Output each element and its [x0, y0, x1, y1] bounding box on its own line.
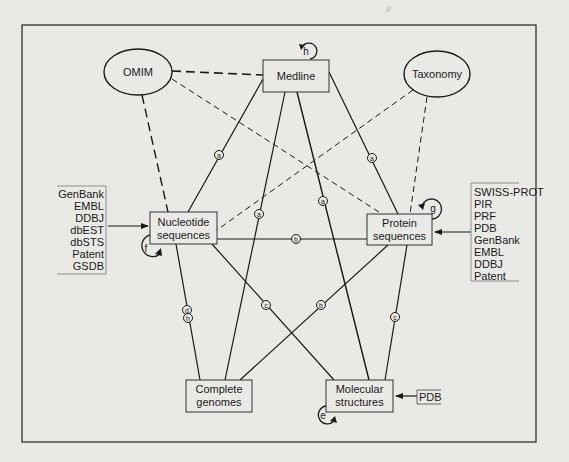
edge-label-medline-structures: a: [319, 197, 328, 206]
node-protein-sequences: Protein sequences: [367, 214, 432, 245]
svg-text:e: e: [320, 410, 326, 421]
svg-text:Patent: Patent: [474, 270, 506, 282]
svg-text:h: h: [303, 46, 309, 57]
edge-omim-protein: [172, 79, 382, 214]
protein-sources-list: SWISS-PROT PIR PRF PDB GenBank EMBL DDBJ…: [471, 183, 544, 282]
edge-omim-nucleotide: [142, 95, 168, 212]
svg-text:GSDB: GSDB: [73, 260, 104, 272]
edge-omim-medline: [172, 71, 263, 75]
svg-text:dbEST: dbEST: [70, 224, 104, 236]
svg-text:Molecular: Molecular: [336, 383, 384, 395]
edge-label-medline-genomes: a: [255, 210, 264, 219]
node-omim-label: OMIM: [123, 66, 153, 78]
edge-medline-genomes: [225, 92, 285, 380]
node-nucleotide-sequences: Nucleotide sequences: [150, 212, 217, 244]
svg-text:structures: structures: [335, 396, 384, 408]
loop-arrow-icon: [330, 416, 337, 423]
node-omim: OMIM: [104, 49, 172, 95]
entrez-database-diagram: // a: [0, 0, 569, 462]
svg-text:a: a: [321, 198, 325, 205]
svg-text:f: f: [145, 243, 148, 254]
stray-mark: //: [386, 4, 392, 14]
svg-text:c: c: [393, 314, 397, 321]
svg-text:GenBank: GenBank: [58, 188, 104, 200]
node-medline-label: Medline: [277, 70, 316, 82]
svg-text:dbSTS: dbSTS: [70, 236, 104, 248]
loop-arrow-icon: [418, 203, 425, 210]
node-medline: Medline: [263, 60, 329, 92]
svg-text:sequences: sequences: [373, 230, 427, 242]
edge-label-medline-nucleotide: a: [215, 151, 224, 160]
svg-text:SWISS-PROT: SWISS-PROT: [474, 186, 544, 198]
svg-text:b: b: [319, 302, 323, 309]
svg-text:Nucleotide: Nucleotide: [158, 216, 210, 228]
node-molecular-structures: Molecular structures: [326, 380, 393, 412]
svg-text:h: h: [186, 315, 190, 322]
svg-text:EMBL: EMBL: [74, 200, 104, 212]
svg-text:DDBJ: DDBJ: [75, 212, 104, 224]
svg-text:DDBJ: DDBJ: [474, 258, 503, 270]
edge-label-medline-protein: a: [368, 154, 377, 163]
svg-text:sequences: sequences: [157, 229, 211, 241]
node-taxonomy-label: Taxonomy: [412, 68, 463, 80]
edge-medline-structures: [297, 92, 369, 380]
node-complete-genomes: Complete genomes: [186, 380, 252, 412]
edge-label-nucleotide-protein: b: [292, 235, 301, 244]
self-loop-medline: h: [299, 43, 317, 59]
svg-text:g: g: [430, 203, 436, 214]
edge-taxonomy-nucleotide: [217, 90, 413, 230]
svg-text:c: c: [264, 302, 268, 309]
edge-label-protein-genomes: b: [317, 301, 326, 310]
svg-text:a: a: [257, 211, 261, 218]
structures-source-pdb: PDB: [417, 390, 442, 404]
svg-text:a: a: [217, 152, 221, 159]
svg-text:PDB: PDB: [419, 391, 442, 403]
svg-text:PDB: PDB: [474, 222, 497, 234]
edge-label-nucleotide-structures: c: [262, 301, 271, 310]
edge-taxonomy-protein: [410, 97, 427, 214]
svg-text:genomes: genomes: [196, 396, 242, 408]
svg-text:GenBank: GenBank: [474, 234, 520, 246]
svg-text:Complete: Complete: [195, 383, 242, 395]
svg-text:a: a: [370, 155, 374, 162]
svg-text:PRF: PRF: [474, 210, 496, 222]
edge-medline-nucleotide: [188, 79, 263, 212]
nucleotide-sources-list: GenBank EMBL DDBJ dbEST dbSTS Patent GSD…: [57, 186, 106, 274]
loop-arrow-icon: [155, 248, 162, 256]
edge-label-protein-structures: c: [391, 313, 400, 322]
svg-text:Protein: Protein: [382, 217, 417, 229]
svg-text:b: b: [294, 236, 298, 243]
edge-nucleotide-structures: [212, 244, 334, 380]
edge-protein-genomes: [240, 245, 388, 380]
edge-label-nucleotide-genomes-h: h: [184, 314, 193, 323]
svg-text:d: d: [185, 307, 189, 314]
node-taxonomy: Taxonomy: [404, 51, 470, 97]
svg-text:PIR: PIR: [474, 198, 492, 210]
svg-text:Patent: Patent: [72, 248, 104, 260]
svg-text:EMBL: EMBL: [474, 246, 504, 258]
